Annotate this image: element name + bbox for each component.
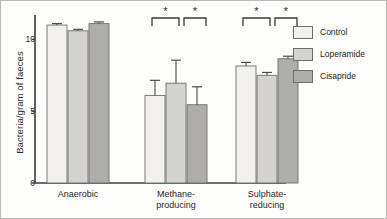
bar-control-2 [236,66,256,183]
bar-cisapride-1 [187,105,207,183]
significance-bracket-sulphate-1 [243,18,270,26]
bar-control-0 [47,25,67,183]
bar-cisapride-0 [89,24,109,183]
legend-swatch-control [293,26,313,39]
bar-loperamide-0 [68,31,88,183]
bar-loperamide-1 [166,83,186,183]
x-axis-label-sulphate-reducing: Sulphate- reducing [217,189,317,210]
legend-swatch-cisapride [293,70,313,83]
significance-bracket-methane-2 [184,18,206,26]
significance-star: * [163,5,168,17]
figure-panel: Bacteria/gram of faeces 10 5 0 **** Anae… [0,0,387,219]
legend-label-loperamide: Loperamide [320,49,365,59]
legend-swatch-loperamide [293,48,313,61]
significance-star: * [284,5,289,17]
x-axis-label-methane-producing: Methane- producing [126,189,226,210]
legend-label-cisapride: Cisapride [320,71,356,81]
legend-item-control: Control [293,23,385,41]
bar-control-1 [145,95,165,183]
error-bar-cisapride-1 [192,87,202,105]
bar-loperamide-2 [257,75,277,183]
significance-star: * [193,5,198,17]
error-bar-control-1 [150,80,160,95]
significance-bracket-methane-1 [152,18,179,26]
legend-item-loperamide: Loperamide [293,45,385,63]
legend-item-cisapride: Cisapride [293,67,385,85]
significance-star: * [254,5,259,17]
error-bar-control-2 [241,62,251,66]
x-axis-label-anaerobic: Anaerobic [28,189,128,200]
error-bar-loperamide-1 [171,60,181,83]
legend: Control Loperamide Cisapride [293,23,385,89]
legend-label-control: Control [320,27,347,37]
